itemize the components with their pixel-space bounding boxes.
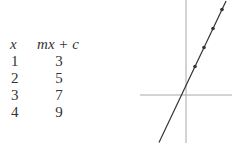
data-point — [211, 27, 215, 31]
data-point — [202, 46, 206, 50]
line-graph — [0, 0, 245, 150]
data-point — [193, 65, 197, 69]
data-point — [220, 8, 224, 12]
line-y-equals-mx-plus-c — [159, 1, 226, 143]
